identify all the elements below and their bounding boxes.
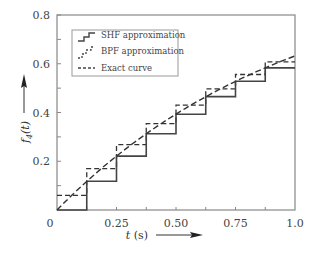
y-axis-arrow-icon bbox=[21, 74, 27, 88]
x-tick-label: 1.0 bbox=[286, 217, 304, 230]
svg-text:f4(t): f4(t) bbox=[19, 121, 34, 144]
x-tick-label: 0.50 bbox=[164, 217, 189, 230]
y-axis-title: f4(t) bbox=[19, 121, 34, 144]
chart: 0.20.40.60.800.250.500.751.0 SHF approxi… bbox=[0, 0, 312, 256]
series-layer bbox=[57, 56, 295, 210]
shf-approximation-line bbox=[57, 68, 295, 210]
legend: SHF approximationBPF approximationExact … bbox=[72, 30, 186, 76]
legend-label: Exact curve bbox=[101, 63, 152, 73]
legend-label: SHF approximation bbox=[101, 30, 186, 40]
y-tick-label: 0.4 bbox=[33, 107, 51, 120]
origin-label: 0 bbox=[47, 217, 54, 230]
y-tick-label: 0.8 bbox=[33, 9, 51, 22]
y-tick-label: 0.2 bbox=[33, 155, 51, 168]
x-tick-label: 0.75 bbox=[223, 217, 248, 230]
legend-label: BPF approximation bbox=[101, 46, 185, 56]
x-axis-title: t (s) bbox=[126, 229, 148, 242]
y-tick-label: 0.6 bbox=[33, 58, 51, 71]
